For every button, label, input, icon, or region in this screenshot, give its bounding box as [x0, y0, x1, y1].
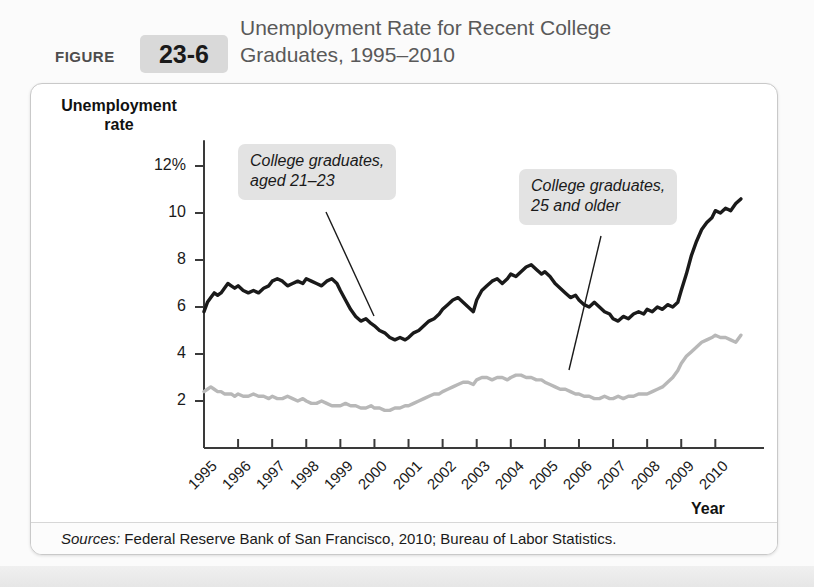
figure-container: FIGURE 23-6 Unemployment Rate for Recent… — [0, 0, 814, 587]
figure-label: FIGURE — [55, 48, 115, 65]
callout-series-a: College graduates,aged 21–23 — [238, 144, 396, 200]
callout-line: College graduates, — [531, 177, 665, 194]
figure-number: 23-6 — [140, 40, 228, 69]
callout-line: 25 and older — [531, 197, 620, 214]
chart-panel: Unemployment rate Year 24681012% 1995199… — [30, 83, 778, 555]
figure-header: FIGURE 23-6 Unemployment Rate for Recent… — [0, 10, 814, 80]
callout-leader-a — [326, 212, 374, 316]
callout-series-b: College graduates,25 and older — [519, 169, 677, 225]
line-chart-plot — [31, 84, 777, 522]
chart-area: Unemployment rate Year 24681012% 1995199… — [31, 84, 777, 522]
figure-title: Unemployment Rate for Recent College Gra… — [240, 15, 660, 69]
sources-text: Sources: Federal Reserve Bank of San Fra… — [61, 530, 616, 547]
callout-line: College graduates, — [250, 152, 384, 169]
callout-line: aged 21–23 — [250, 172, 335, 189]
sources-bar: Sources: Federal Reserve Bank of San Fra… — [31, 522, 777, 555]
sources-prefix: Sources: — [61, 530, 120, 547]
series-line-b — [204, 335, 741, 410]
page-bottom-shade — [0, 566, 814, 587]
sources-body: Federal Reserve Bank of San Francisco, 2… — [120, 530, 616, 547]
